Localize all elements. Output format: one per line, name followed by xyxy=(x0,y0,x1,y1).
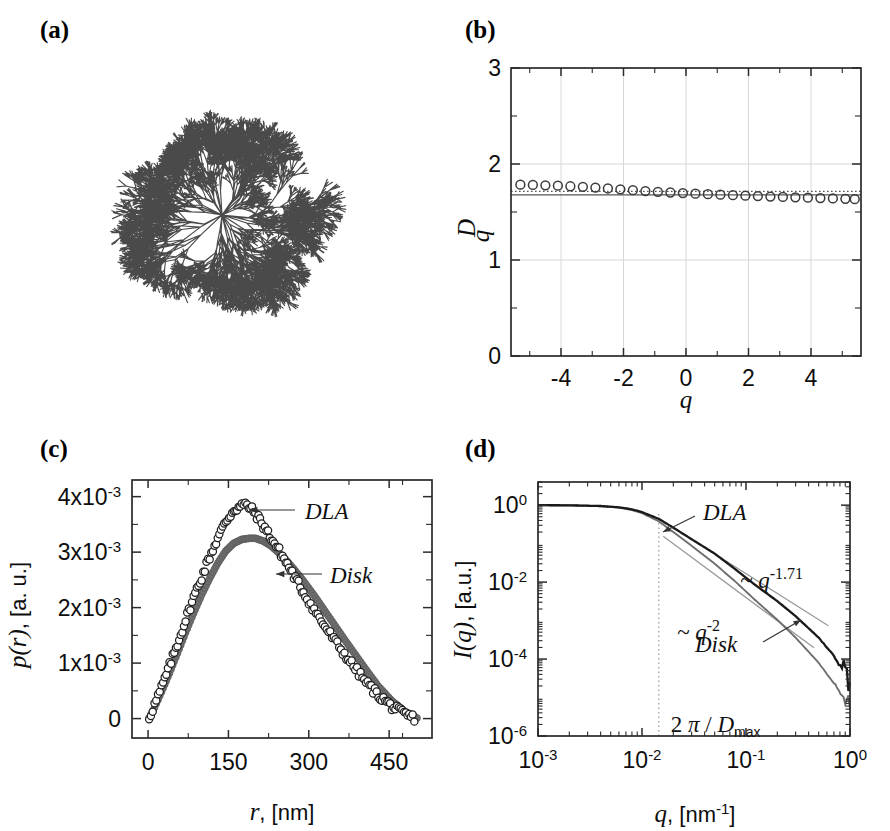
y-tick-label: 2x10-3 xyxy=(58,594,121,621)
panel-b-x-axis-title: q xyxy=(680,386,693,413)
y-tick-label: 10-2 xyxy=(488,568,527,595)
dla-curve xyxy=(538,505,850,691)
data-point xyxy=(264,527,271,534)
data-point xyxy=(778,193,787,202)
data-point xyxy=(528,181,537,190)
dla-cluster-image xyxy=(0,0,445,420)
data-point xyxy=(753,192,762,201)
data-point xyxy=(409,711,416,718)
data-point xyxy=(766,192,775,201)
y-tick-label: 3x10-3 xyxy=(58,538,121,565)
data-point xyxy=(566,182,575,191)
data-point xyxy=(201,568,208,575)
x-tick-label: 450 xyxy=(370,749,408,775)
dla-curve xyxy=(146,499,418,725)
data-point xyxy=(182,618,189,625)
svg-text:I(q), [a.u.]: I(q), [a.u.] xyxy=(449,561,477,661)
annotation-disk: Disk xyxy=(329,563,373,588)
panel-a: (a) xyxy=(0,0,445,420)
annotation-slope-dla: ~ q-1.71 xyxy=(740,565,803,593)
x-tick-label: -2 xyxy=(613,365,633,391)
data-point xyxy=(591,183,600,192)
data-point xyxy=(341,649,348,656)
data-point xyxy=(666,188,675,197)
y-tick-label: 100 xyxy=(493,491,527,518)
data-point xyxy=(516,180,525,189)
data-point xyxy=(149,708,156,715)
data-point xyxy=(850,195,859,204)
data-point xyxy=(791,193,800,202)
x-tick-label: 2 xyxy=(742,365,755,391)
data-point xyxy=(295,577,302,584)
y-tick-label: 0 xyxy=(108,706,121,732)
data-point xyxy=(578,182,587,191)
data-point xyxy=(187,607,194,614)
panel-c-x-axis-title: r, [nm] xyxy=(250,798,315,825)
panel-d-x-axis-title: q, [nm-1] xyxy=(655,800,736,827)
y-tick-label: 3 xyxy=(488,55,501,81)
panel-c: (c) 0150300450 01x10-32x10-33x10-34x10-3… xyxy=(0,420,445,831)
y-tick-label: 0 xyxy=(488,343,501,369)
data-point xyxy=(411,718,418,725)
data-point xyxy=(198,577,205,584)
disk-leader-head xyxy=(276,571,284,578)
y-tick-label: 10-6 xyxy=(488,722,527,749)
panel-b-plot: -4-2024 0123 D q q xyxy=(445,0,890,420)
x-tick-label: 0 xyxy=(142,749,155,775)
panel-d-y-axis-title: I(q), [a.u.] xyxy=(449,561,477,661)
y-tick-label: 10-4 xyxy=(488,645,527,672)
y-tick-label: 2 xyxy=(488,151,501,177)
annotation-2pi-dmax: 2 π / Dmax xyxy=(671,712,761,740)
panel-c-label: (c) xyxy=(40,435,68,463)
x-tick-label: -4 xyxy=(551,365,572,391)
panel-b-label: (b) xyxy=(465,16,496,44)
panel-c-plot: 0150300450 01x10-32x10-33x10-34x10-3 DLA… xyxy=(0,420,445,831)
data-point xyxy=(168,660,175,667)
disk-curve xyxy=(538,505,850,709)
annotation-dla: DLA xyxy=(702,500,747,525)
svg-text:p(r), [a. u.]: p(r), [a. u.] xyxy=(4,562,32,670)
annotation-dla: DLA xyxy=(304,499,349,524)
y-tick-label: 4x10-3 xyxy=(58,483,121,510)
panel-b: (b) -4-2024 0123 D q q xyxy=(445,0,890,420)
panel-d-frame xyxy=(538,482,850,736)
panel-d-plot: 10-310-210-1100 10-610-410-2100 DLADisk~… xyxy=(445,420,890,831)
svg-text:r, [nm]: r, [nm] xyxy=(250,798,315,825)
x-tick-label: 10-1 xyxy=(727,746,766,773)
panel-c-y-axis-title: p(r), [a. u.] xyxy=(4,562,32,670)
x-tick-label: 10-2 xyxy=(623,746,662,773)
panel-d-label: (d) xyxy=(465,435,496,463)
disk-leader-head xyxy=(793,620,801,626)
svg-text:q, [nm-1]: q, [nm-1] xyxy=(655,800,736,827)
x-tick-label: 150 xyxy=(209,749,247,775)
data-point xyxy=(276,544,283,551)
data-point xyxy=(541,181,550,190)
panel-b-y-axis-title: D q xyxy=(453,219,494,242)
svg-text:q: q xyxy=(467,230,494,243)
data-point xyxy=(841,194,850,203)
panel-a-label: (a) xyxy=(40,16,69,44)
data-point xyxy=(206,556,213,563)
x-tick-label: 10-3 xyxy=(519,746,558,773)
x-tick-label: 4 xyxy=(805,365,818,391)
y-tick-label: 1x10-3 xyxy=(58,649,121,676)
panel-d: (d) 10-310-210-1100 10-610-410-2100 DLAD… xyxy=(445,420,890,831)
data-point xyxy=(628,186,637,195)
y-tick-label: 1 xyxy=(488,247,501,273)
x-tick-label: 300 xyxy=(290,749,328,775)
dla-branch-network xyxy=(111,110,346,317)
data-point xyxy=(691,189,700,198)
x-tick-label: 100 xyxy=(833,746,867,773)
